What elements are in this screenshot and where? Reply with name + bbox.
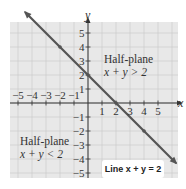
svg-text:−1: −1: [73, 111, 85, 123]
svg-text:4: 4: [79, 41, 85, 53]
svg-text:−5: −5: [12, 89, 24, 101]
svg-text:3: 3: [127, 105, 133, 117]
svg-text:1: 1: [79, 83, 85, 95]
svg-text:3: 3: [79, 55, 85, 67]
svg-text:−2: −2: [73, 125, 85, 137]
x-axis-label: x: [178, 97, 183, 109]
svg-text:−3: −3: [40, 89, 52, 101]
svg-text:−2: −2: [54, 89, 66, 101]
y-axis-label: y: [85, 9, 90, 21]
svg-text:1: 1: [99, 105, 105, 117]
svg-text:−4: −4: [73, 153, 85, 165]
svg-text:5: 5: [79, 27, 85, 39]
svg-text:−5: −5: [73, 167, 85, 179]
svg-text:2: 2: [79, 69, 85, 81]
lower-region-title: Half-plane: [20, 135, 69, 147]
svg-text:4: 4: [141, 105, 147, 117]
svg-text:−3: −3: [73, 139, 85, 151]
line-equation-label: Line x + y = 2: [102, 160, 164, 178]
svg-text:2: 2: [113, 105, 119, 117]
upper-region-title: Half-plane: [104, 53, 153, 65]
lower-region-inequality: x + y < 2: [20, 148, 63, 160]
svg-text:−4: −4: [26, 89, 38, 101]
svg-text:5: 5: [155, 105, 161, 117]
upper-region-inequality: x + y > 2: [104, 66, 147, 78]
